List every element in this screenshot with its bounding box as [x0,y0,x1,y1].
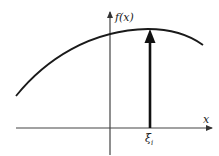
point-label: ξi [145,132,153,147]
evaluation-arrowhead [145,29,156,43]
diagram-canvas: f(x) x ξi [0,0,219,156]
y-axis-label: f(x) [114,11,134,24]
point-label-subscript: i [151,139,153,147]
x-axis-label: x [203,113,210,126]
